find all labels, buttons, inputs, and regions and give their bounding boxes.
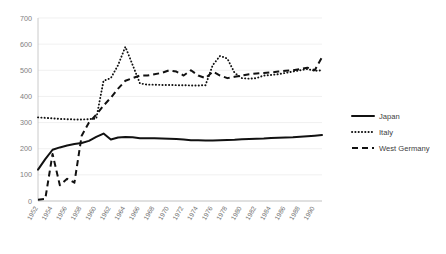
chart-svg: 0100200300400500600700 19521954195619581… (0, 0, 446, 254)
x-axis-tick-label: 1960 (84, 205, 98, 221)
x-axis-ticks-group: 1952195419561958196019621964196619681970… (25, 205, 315, 221)
y-axis-tick-label: 0 (28, 197, 32, 206)
x-axis-tick-label: 1976 (200, 205, 214, 221)
y-axis-tick-label: 300 (20, 118, 32, 127)
x-axis-tick-label: 1988 (288, 205, 302, 221)
axis-lines-group (38, 18, 322, 201)
data-series-group (38, 47, 322, 200)
x-axis-tick-label: 1964 (113, 205, 127, 221)
line-chart: 0100200300400500600700 19521954195619581… (0, 0, 446, 254)
series-line-japan (38, 134, 322, 170)
x-axis-tick-label: 1956 (55, 205, 69, 221)
y-axis-tick-label: 100 (20, 170, 32, 179)
x-axis-tick-label: 1954 (40, 205, 54, 221)
plot-area: 0100200300400500600700 19521954195619581… (0, 0, 446, 254)
x-axis-tick-label: 1986 (273, 205, 287, 221)
x-axis-tick-label: 1984 (258, 205, 272, 221)
x-axis-tick-label: 1982 (244, 205, 258, 221)
x-axis-tick-label: 1970 (157, 205, 171, 221)
y-axis-ticks-group: 0100200300400500600700 (20, 14, 32, 206)
y-axis-tick-label: 400 (20, 92, 32, 101)
gridlines-group (38, 18, 322, 201)
x-axis-tick-label: 1972 (171, 205, 185, 221)
x-axis-tick-label: 1962 (98, 205, 112, 221)
y-axis-tick-label: 700 (20, 14, 32, 23)
legend-label-japan: Japan (379, 112, 400, 121)
legend-label-italy: Italy (379, 128, 393, 137)
x-axis-tick-label: 1952 (25, 205, 39, 221)
x-axis-tick-label: 1958 (69, 205, 83, 221)
legend-label-west-germany: West Germany (379, 144, 430, 153)
x-axis-tick-label: 1990 (302, 205, 316, 221)
y-axis-tick-label: 200 (20, 144, 32, 153)
legend: JapanItalyWest Germany (352, 112, 430, 153)
y-axis-tick-label: 500 (20, 66, 32, 75)
x-axis-tick-label: 1978 (215, 205, 229, 221)
x-axis-tick-label: 1966 (127, 205, 141, 221)
y-axis-tick-label: 600 (20, 40, 32, 49)
x-axis-tick-label: 1968 (142, 205, 156, 221)
x-axis-tick-label: 1980 (229, 205, 243, 221)
x-axis-tick-label: 1974 (186, 205, 200, 221)
series-line-west-germany (38, 57, 322, 199)
series-line-italy (38, 47, 322, 120)
